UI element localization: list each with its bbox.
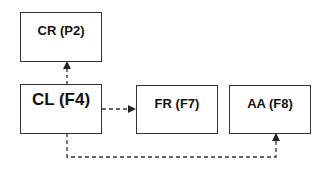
node-aa: AA (F8) <box>229 85 311 134</box>
node-cl-label: CL (F4) <box>21 90 101 110</box>
node-fr: FR (F7) <box>136 85 218 134</box>
diagram-canvas: CR (P2) CL (F4) FR (F7) AA (F8) <box>0 0 328 169</box>
node-cr: CR (P2) <box>20 12 102 62</box>
node-fr-label: FR (F7) <box>137 96 217 111</box>
node-aa-label: AA (F8) <box>230 96 310 111</box>
edge-cl-to-aa <box>67 133 276 157</box>
node-cl: CL (F4) <box>20 84 102 134</box>
node-cr-label: CR (P2) <box>21 23 101 38</box>
